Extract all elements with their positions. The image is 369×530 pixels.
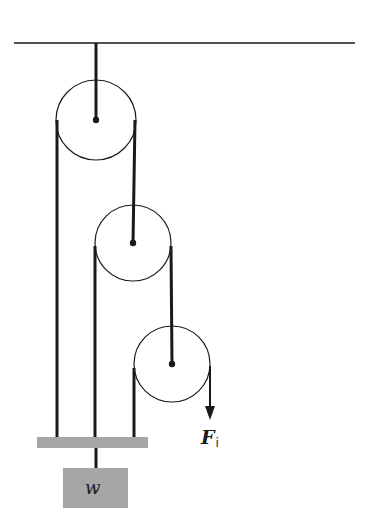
rope-2-right: [171, 246, 172, 364]
rope-1-right: [133, 120, 135, 243]
pulley-1: [56, 43, 136, 160]
force-subscript: i: [216, 436, 219, 450]
bar: [37, 437, 148, 448]
force-symbol: F: [201, 426, 215, 448]
pulley-diagram: [0, 0, 369, 530]
force-arrow-icon: [205, 406, 215, 420]
weight-label: w: [85, 477, 100, 498]
force-label: Fi: [201, 426, 219, 448]
